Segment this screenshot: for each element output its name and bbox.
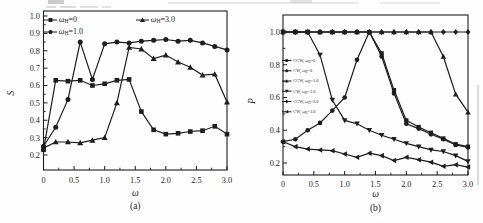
- data-point-marker: [342, 95, 347, 100]
- data-point-marker: [151, 128, 156, 133]
- data-point-marker: [404, 121, 409, 126]
- data-point-marker: [114, 100, 120, 105]
- y-axis-tick-label: 0.8: [270, 61, 280, 70]
- y-axis-tick-label: 0.3: [30, 134, 40, 143]
- y-axis-label: S: [6, 90, 16, 95]
- data-point-marker: [188, 38, 193, 43]
- data-point-marker: [391, 158, 396, 164]
- y-axis-tick-label: 0.5: [30, 99, 40, 108]
- legend-label: CCW, ωH=0: [293, 58, 316, 64]
- legend-marker: [285, 100, 288, 104]
- x-axis-tick-label: 2.5: [432, 180, 442, 189]
- data-point-marker: [65, 97, 70, 102]
- y-axis-tick-label: 1.0: [30, 12, 40, 21]
- data-point-marker: [379, 54, 384, 59]
- y-axis-tick-label: 1.0: [270, 28, 280, 37]
- y-axis-tick-label: 0.7: [30, 64, 40, 73]
- x-axis-tick-label: 2.0: [161, 176, 171, 185]
- data-point-marker: [163, 37, 168, 42]
- data-point-marker: [293, 30, 297, 34]
- data-point-marker: [115, 78, 120, 83]
- data-point-marker: [342, 151, 347, 157]
- data-point-marker: [200, 40, 205, 45]
- data-point-marker: [354, 121, 360, 126]
- data-point-marker: [317, 147, 322, 153]
- data-point-marker: [176, 131, 181, 136]
- data-point-marker: [441, 137, 446, 142]
- x-axis-label: ω: [132, 188, 139, 198]
- data-point-marker: [305, 128, 310, 133]
- y-axis-tick-label: 0.6: [30, 81, 40, 90]
- data-point-marker: [441, 29, 446, 35]
- data-point-marker: [453, 162, 458, 168]
- legend-marker: [285, 69, 288, 72]
- legend-entry: ωH=3.0: [136, 15, 175, 24]
- y-axis-tick-label: 0.4: [270, 126, 281, 135]
- series-line: [44, 40, 228, 147]
- x-axis-tick-label: 1.0: [339, 180, 349, 189]
- legend-marker: [49, 18, 53, 22]
- x-axis-tick-label: 0.5: [69, 176, 79, 185]
- legend-entry: ωH=1.0: [44, 27, 83, 36]
- data-point-marker: [90, 83, 95, 88]
- data-point-marker: [176, 39, 181, 44]
- data-point-marker: [466, 145, 471, 150]
- data-point-marker: [90, 77, 95, 82]
- panel-b-chart: 00.51.01.52.02.53.01.00.80.60.40.2Pω(b)C…: [241, 0, 483, 223]
- data-point-marker: [441, 54, 447, 59]
- y-axis-tick-label: 0.6: [270, 93, 280, 102]
- data-point-marker: [379, 153, 384, 159]
- data-point-marker: [317, 53, 323, 58]
- data-point-marker: [428, 159, 433, 165]
- x-axis-tick-label: 1.5: [130, 176, 140, 185]
- data-point-marker: [306, 30, 310, 34]
- data-point-marker: [453, 91, 459, 96]
- data-point-marker: [318, 121, 323, 126]
- y-axis-tick-label: 0.2: [30, 151, 40, 160]
- data-point-marker: [163, 52, 169, 57]
- legend-marker: [285, 110, 288, 114]
- data-point-marker: [114, 40, 119, 45]
- data-point-marker: [305, 146, 310, 152]
- legend-marker: [285, 59, 288, 62]
- legend-label: CCW, ωH=1.0: [293, 78, 319, 84]
- data-point-marker: [78, 78, 83, 83]
- y-axis-tick-label: 0.8: [30, 47, 40, 56]
- x-axis-tick-label: 2.5: [191, 176, 201, 185]
- x-axis-tick-label: 1.0: [99, 176, 109, 185]
- legend-entry: CCW, ωH=3.0: [282, 99, 319, 105]
- legend-entry: CCW, ωH=1.0: [282, 78, 319, 84]
- y-axis-label: P: [247, 98, 257, 105]
- data-point-marker: [78, 40, 83, 45]
- legend-label: CW, ωH=0: [293, 68, 313, 74]
- legend-marker: [48, 30, 52, 34]
- x-axis-tick-label: 0: [281, 180, 285, 189]
- data-point-marker: [53, 78, 58, 83]
- y-axis-tick-label: 0.2: [270, 159, 280, 168]
- series-line: [283, 142, 468, 167]
- data-point-marker: [465, 159, 471, 164]
- data-point-marker: [367, 150, 372, 156]
- data-point-marker: [355, 30, 359, 34]
- data-point-marker: [281, 30, 285, 34]
- data-point-marker: [343, 30, 347, 34]
- data-point-marker: [330, 30, 334, 34]
- y-axis-tick-label: 0.9: [30, 29, 40, 38]
- data-point-marker: [453, 29, 458, 35]
- data-point-marker: [354, 155, 359, 161]
- legend-label: ωH=3.0: [151, 15, 175, 24]
- data-point-marker: [200, 128, 205, 133]
- x-axis-tick-label: 3.0: [222, 176, 232, 185]
- data-point-marker: [367, 30, 372, 35]
- legend-label: CCW, ωH=3.0: [293, 99, 319, 105]
- data-point-marker: [392, 91, 397, 96]
- data-point-marker: [225, 47, 230, 52]
- data-point-marker: [139, 39, 144, 44]
- x-axis-tick-label: 3.0: [463, 180, 473, 189]
- data-point-marker: [453, 143, 458, 148]
- x-axis-tick-label: 0: [41, 176, 45, 185]
- legend-label: CW, ωH=1.0: [293, 89, 316, 95]
- legend-label: CW, ωH=3.0: [293, 109, 316, 115]
- legend-entry: CW, ωH=0: [282, 68, 313, 74]
- data-point-marker: [318, 30, 322, 34]
